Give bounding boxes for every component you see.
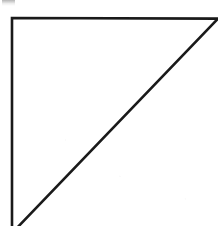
figure-canvas — [0, 0, 218, 226]
right-triangle-drawing — [0, 0, 218, 226]
triangle-outline — [12, 18, 218, 226]
